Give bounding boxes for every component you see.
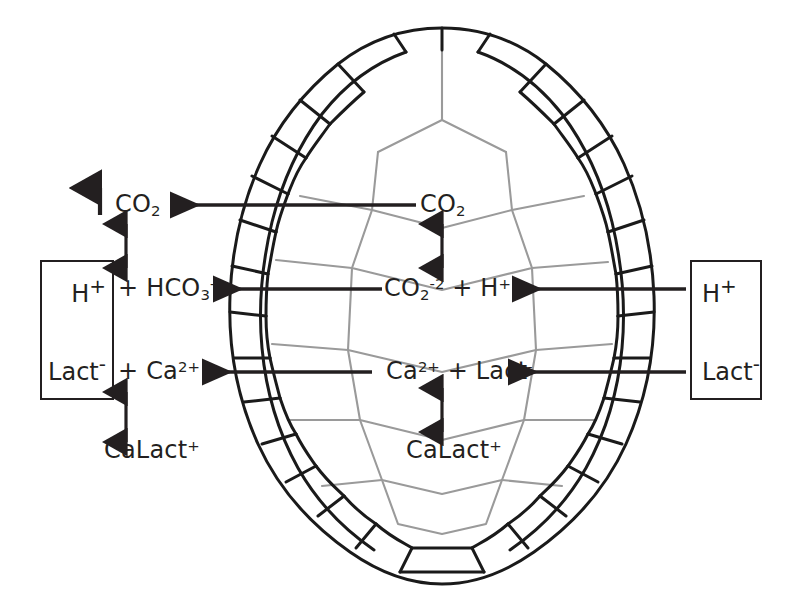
shell-co2-label: CO2: [420, 192, 466, 219]
blood-bicarbonate-label: + HCO3-: [118, 276, 215, 303]
blood-calcium-label: + Ca2+: [118, 359, 200, 383]
exhaled-co2-label: CO2: [115, 192, 161, 219]
blood-calcium-lactate-label: CaLact+: [104, 438, 200, 462]
shell-calcium-lactate-ions-label: Ca2+ + Lact-: [386, 359, 533, 383]
shell-calcium-lactate-label: CaLact+: [406, 438, 502, 462]
blood-compartment-box: H+ Lact-: [40, 260, 114, 400]
blood-proton-label: H+: [71, 274, 106, 308]
muscle-compartment-box: H+ Lact-: [690, 260, 762, 400]
diagram-canvas: H+ Lact- H+ Lact- CO2 + HCO3- + Ca2+ CaL…: [0, 0, 798, 612]
shell-carbonate-proton-label: CO2-2 + H+: [384, 276, 511, 303]
muscle-proton-label: H+: [702, 274, 737, 308]
muscle-lactate-label: Lact-: [702, 352, 760, 386]
turtle-carapace-illustration: [0, 0, 798, 612]
blood-lactate-label: Lact-: [48, 352, 106, 386]
